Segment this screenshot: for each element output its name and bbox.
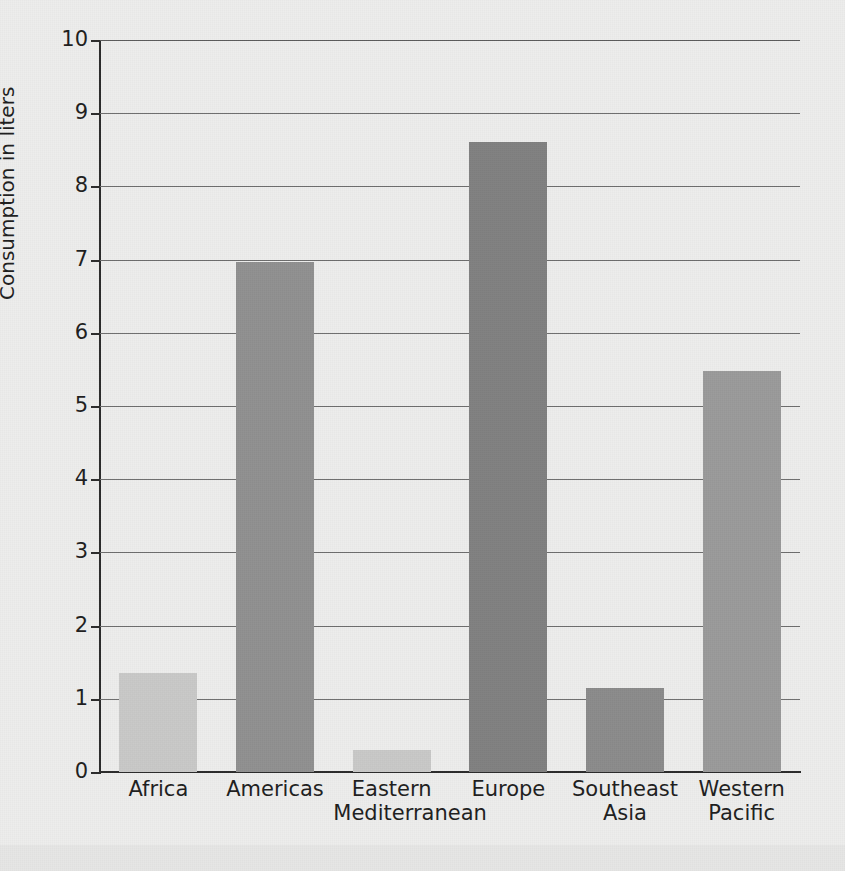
x-axis-category-label: Americas xyxy=(217,778,334,802)
bar xyxy=(119,673,197,772)
category-label-line: Southeast xyxy=(567,778,684,802)
gridline xyxy=(100,333,800,334)
x-axis-category-label: WesternPacific xyxy=(683,778,800,825)
y-axis-title: Consumption in liters xyxy=(0,40,19,300)
category-label-line: Americas xyxy=(217,778,334,802)
bar xyxy=(586,688,664,772)
gridline xyxy=(100,260,800,261)
y-axis-tick-label: 4 xyxy=(48,468,88,489)
x-axis-category-label: EasternMediterranean xyxy=(333,778,450,825)
y-axis-tick xyxy=(91,626,100,628)
gridline xyxy=(100,699,800,700)
category-label-line: Eastern xyxy=(333,778,450,802)
gridline xyxy=(100,552,800,553)
gridline xyxy=(100,479,800,480)
x-axis-category-label: Africa xyxy=(100,778,217,802)
y-axis-tick-label: 8 xyxy=(48,175,88,196)
y-axis-tick-label: 2 xyxy=(48,615,88,636)
bar xyxy=(236,262,314,772)
bar xyxy=(703,371,781,772)
bar xyxy=(353,750,431,772)
category-label-line: Pacific xyxy=(683,802,800,826)
plot-area xyxy=(100,40,800,772)
y-axis-tick xyxy=(91,186,100,188)
gridline xyxy=(100,186,800,187)
y-axis-tick xyxy=(91,552,100,554)
y-axis-tick xyxy=(91,406,100,408)
category-label-line: Asia xyxy=(567,802,684,826)
y-axis-tick-label: 10 xyxy=(48,29,88,50)
y-axis-tick-label: 7 xyxy=(48,249,88,270)
y-axis-tick xyxy=(91,333,100,335)
page-footer-band xyxy=(0,845,845,871)
y-axis-tick-label: 3 xyxy=(48,541,88,562)
bar xyxy=(469,142,547,772)
gridline xyxy=(100,406,800,407)
y-axis-tick-label: 5 xyxy=(48,395,88,416)
y-axis-tick xyxy=(91,479,100,481)
category-label-line: Africa xyxy=(100,778,217,802)
y-axis-tick-label: 0 xyxy=(48,761,88,782)
y-axis-tick-label: 6 xyxy=(48,322,88,343)
category-label-line: Mediterranean xyxy=(333,802,450,826)
gridline xyxy=(100,113,800,114)
gridline xyxy=(100,40,800,41)
y-axis-tick xyxy=(91,113,100,115)
y-axis-tick-label: 9 xyxy=(48,102,88,123)
category-label-line: Western xyxy=(683,778,800,802)
y-axis-tick xyxy=(91,772,100,774)
y-axis-tick xyxy=(91,40,100,42)
x-axis-category-label: SoutheastAsia xyxy=(567,778,684,825)
chart-figure: Consumption in liters 109876543210 Afric… xyxy=(0,0,845,871)
category-label-line: Europe xyxy=(450,778,567,802)
y-axis-tick xyxy=(91,699,100,701)
y-axis-tick xyxy=(91,260,100,262)
gridline xyxy=(100,626,800,627)
x-axis-category-label: Europe xyxy=(450,778,567,802)
y-axis-tick-label: 1 xyxy=(48,688,88,709)
